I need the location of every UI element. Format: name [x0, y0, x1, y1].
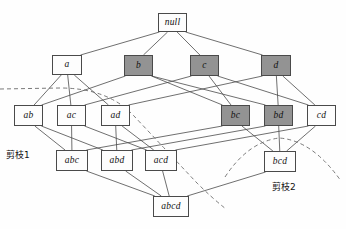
- edge-cd-acd: [175, 126, 308, 150]
- edge-b-bd: [152, 76, 266, 105]
- node-ab: ab: [14, 105, 43, 126]
- edge-a-ac: [68, 75, 71, 105]
- node-d: d: [261, 55, 291, 76]
- edge-bd-abd: [131, 126, 265, 150]
- edge-a-ad: [74, 75, 108, 105]
- edge-bd-bcd: [279, 126, 280, 151]
- edge-ad-abd: [116, 126, 117, 150]
- edge-c-cd: [218, 76, 309, 105]
- node-abc: abc: [56, 150, 88, 171]
- edge-abc-abcd: [86, 171, 154, 196]
- node-cd: cd: [307, 105, 336, 126]
- node-bd: bd: [264, 105, 293, 126]
- annotation-prune-2: 剪枝2: [272, 180, 296, 193]
- node-abd: abd: [101, 150, 133, 171]
- node-null: null: [158, 13, 187, 32]
- edge-d-bd: [276, 76, 278, 105]
- lattice-diagram-canvas: nullabcdabacadbcbdcdabcabdacdbcdabcd 剪枝1…: [0, 0, 346, 229]
- node-a: a: [52, 55, 82, 75]
- node-bc: bc: [221, 105, 250, 126]
- annotation-prune-1: 剪枝1: [6, 148, 30, 161]
- edge-d-ad: [129, 76, 263, 105]
- edge-a-ab: [34, 75, 61, 105]
- node-acd: acd: [145, 150, 177, 171]
- node-c: c: [190, 55, 219, 76]
- node-bcd: bcd: [264, 151, 296, 172]
- node-ad: ad: [101, 105, 130, 126]
- edge-layer: [0, 0, 346, 229]
- edge-b-ab: [42, 76, 126, 105]
- edge-null-d: [186, 32, 263, 55]
- edge-acd-abcd: [163, 171, 170, 196]
- node-abcd: abcd: [153, 196, 189, 217]
- node-ac: ac: [57, 105, 86, 126]
- edge-cd-bcd: [287, 126, 316, 151]
- edge-d-cd: [283, 76, 315, 105]
- edge-c-ac: [85, 76, 192, 105]
- node-b: b: [124, 55, 153, 76]
